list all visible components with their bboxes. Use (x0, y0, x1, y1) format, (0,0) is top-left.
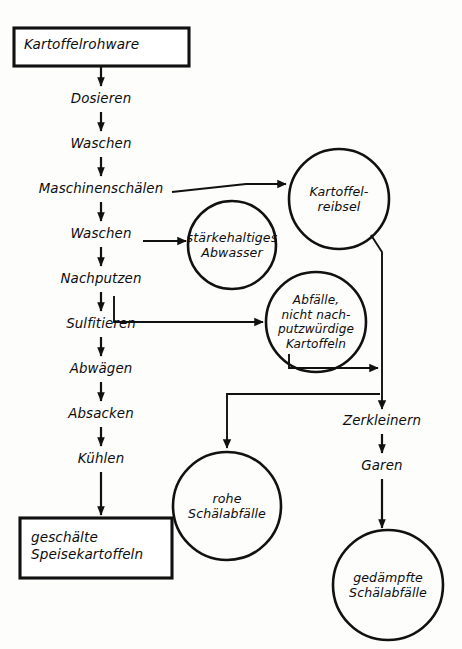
circle-label-kartoffelreibsel: Kartoffel- reibsel (289, 184, 389, 214)
step-label-waschen-1: Waschen (71, 136, 132, 152)
step-label-sulfitieren: Sulfitieren (66, 316, 136, 332)
circle-label-abfaelle: Abfälle, nicht nach- putzwürdige Kartoff… (267, 293, 365, 351)
step-label-zerkleinern: Zerkleinern (343, 413, 421, 429)
step-label-abwaegen: Abwägen (70, 361, 133, 377)
circle-line-4: Kartoffeln (286, 337, 346, 351)
end-terminal-label: geschälte Speisekartoffeln (31, 529, 169, 563)
circle-line-2: Schälabfälle (188, 506, 266, 521)
start-terminal-label: Kartoffelrohware (24, 36, 182, 53)
arrow-nachputzen-to-abfaelle (114, 296, 263, 322)
end-terminal-line-2: Speisekartoffeln (31, 546, 143, 562)
step-label-absacken: Absacken (68, 406, 133, 422)
circle-label-rohe-schaelabfaelle: rohe Schälabfälle (175, 491, 279, 521)
circle-line-1: Abfälle, (293, 293, 339, 307)
circle-line-2: Abwasser (201, 245, 262, 260)
step-label-kuehlen: Kühlen (78, 451, 124, 467)
circle-line-1: stärkehaltiges (187, 230, 278, 245)
circle-line-1: gedämpfte (353, 570, 423, 585)
end-terminal-line-1: geschälte (31, 529, 98, 545)
flowchart-diagram: Kartoffelrohware Dosieren Waschen Maschi… (0, 0, 462, 649)
arrow-abfaelle-to-zerkleinern-line (289, 354, 378, 368)
circle-line-2: Schälabfälle (349, 585, 427, 600)
arrow-maschinenschaelen-to-kartoffelreibsel (172, 184, 286, 192)
step-label-dosieren: Dosieren (71, 91, 131, 107)
step-label-nachputzen: Nachputzen (60, 271, 141, 287)
circle-label-staerkehaltiges-abwasser: stärkehaltiges Abwasser (181, 230, 283, 260)
circle-label-gedaempfte-schaelabfaelle: gedämpfte Schälabfälle (335, 570, 441, 600)
circle-line-2: reibsel (318, 199, 361, 214)
circle-line-3: putzwürdige (278, 322, 354, 336)
circle-line-1: rohe (212, 491, 241, 506)
step-label-garen: Garen (361, 458, 402, 474)
step-label-waschen-2: Waschen (71, 226, 132, 242)
line-kartoffelreibsel-to-zerkleinern (371, 235, 382, 383)
step-label-maschinenschaelen: Maschinenschälen (39, 181, 164, 197)
circle-line-1: Kartoffel- (309, 184, 368, 199)
circle-line-2: nicht nach- (282, 308, 351, 322)
